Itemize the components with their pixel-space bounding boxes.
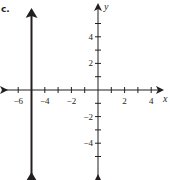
x-tick-label: −2 [67,96,77,106]
y-tick-label: −4 [83,138,93,148]
graph-canvas: −6−4−224 −4−224 y x [0,0,170,180]
x-tick-label: 4 [149,96,154,106]
x-tick-labels: −6−4−224 [13,96,154,106]
x-tick-label: −4 [40,96,50,106]
y-tick-label: 2 [89,58,94,68]
coordinate-graph: c. −6−4−224 −4−224 y x [0,0,170,180]
x-tick-label: −6 [13,96,23,106]
y-tick-label: −2 [83,112,93,122]
x-axis-label: x [162,93,168,104]
y-tick-label: 4 [89,32,94,42]
y-axis-label: y [103,1,109,12]
x-tick-label: 2 [122,96,127,106]
